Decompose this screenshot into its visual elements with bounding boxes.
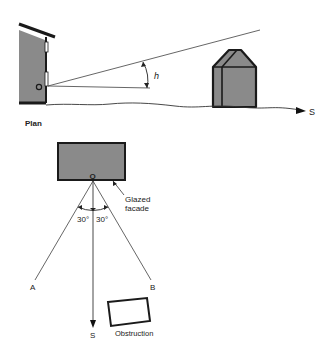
obstruction-label: Obstruction [115, 329, 153, 338]
glazed-label-1: Glazed [125, 195, 150, 204]
plan-title: Plan [25, 119, 42, 128]
ray-a [35, 181, 93, 280]
angle-h-label: h [154, 71, 159, 81]
obstructing-building [213, 50, 256, 107]
angle-left-label: 30° [77, 215, 89, 224]
arc-arrow-bottom-icon [144, 83, 149, 88]
daylight-diagram: O h S Plan O 3 [0, 0, 326, 358]
ground-line [46, 103, 300, 110]
plan-south-arrow-icon [90, 320, 96, 328]
elevation-direction-label: S [309, 107, 315, 117]
plan-point-label: O [90, 172, 96, 181]
glazed-label-2: facade [125, 204, 150, 213]
plan-view: Plan O 30° 30° Glazed facade A B S Obstr… [25, 119, 155, 340]
obstruction-rect [108, 298, 150, 326]
angle-right-label: 30° [96, 215, 108, 224]
sight-line-horizontal [48, 86, 150, 88]
elevation-view: O h S [19, 24, 315, 117]
plan-direction-label: S [90, 331, 95, 340]
ray-a-label: A [30, 283, 36, 292]
south-arrow-icon [296, 107, 306, 114]
ray-b-label: B [150, 283, 155, 292]
